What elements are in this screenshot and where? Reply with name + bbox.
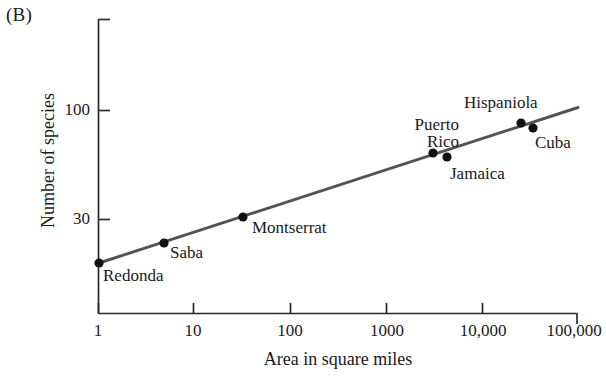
- point-label-jamaica: Jamaica: [450, 165, 505, 182]
- data-point-hispaniola: [516, 118, 525, 127]
- data-point-saba: [159, 238, 168, 247]
- point-label-montserrat: Montserrat: [252, 219, 327, 236]
- x-tick-label-1000: 1000: [370, 321, 404, 341]
- y-axis-ticks: [99, 111, 111, 220]
- data-point-montserrat: [238, 212, 247, 221]
- x-tick-label-100000: 100,000: [546, 321, 601, 341]
- axis-frame: [99, 19, 578, 324]
- trend-line: [99, 108, 578, 264]
- point-label-puerto-rico-line2: Rico: [427, 132, 459, 151]
- plot-canvas: [0, 0, 606, 380]
- point-label-redonda: Redonda: [103, 267, 163, 284]
- point-label-cuba: Cuba: [535, 134, 571, 151]
- x-axis-title: Area in square miles: [98, 349, 578, 370]
- point-label-puerto-rico: Puerto Rico: [391, 116, 459, 151]
- x-tick-label-100: 100: [277, 321, 303, 341]
- x-tick-label-10000: 10,000: [460, 321, 507, 341]
- x-tick-label-1: 1: [94, 321, 103, 341]
- species-area-chart-figure: (B): [0, 0, 606, 380]
- point-label-saba: Saba: [170, 244, 203, 261]
- data-point-jamaica: [442, 152, 451, 161]
- point-label-hispaniola: Hispaniola: [464, 94, 538, 111]
- data-point-cuba: [528, 123, 537, 132]
- point-label-puerto-rico-line1: Puerto: [415, 115, 459, 134]
- x-tick-label-10: 10: [185, 321, 202, 341]
- x-axis-ticks: [99, 303, 483, 314]
- y-axis-title: Number of species: [38, 51, 59, 271]
